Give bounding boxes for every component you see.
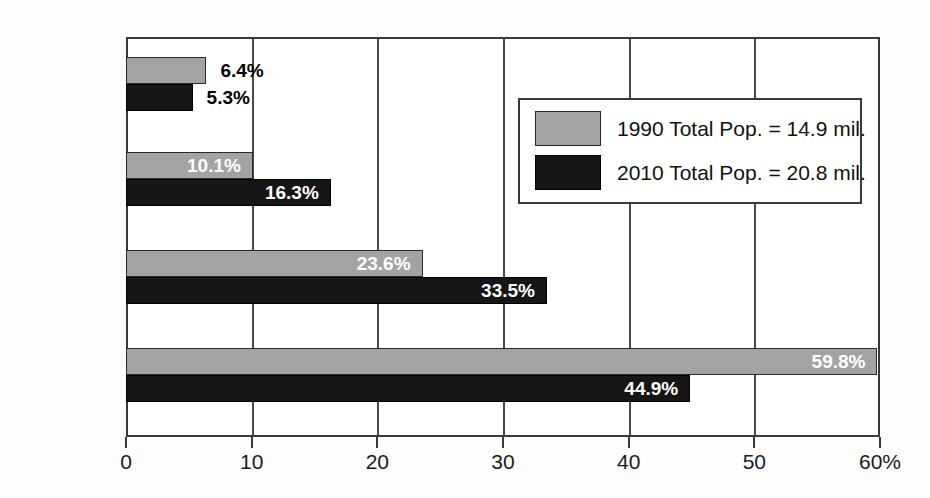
bar-value-label: 23.6% [329, 250, 411, 277]
bar-value-label: 33.5% [453, 277, 535, 304]
x-tick-30 [502, 437, 504, 448]
legend-entry-2010: 2010 Total Pop. = 20.8 mil. [535, 155, 866, 190]
x-tick-label-0: 0 [120, 450, 132, 474]
x-tick-20 [376, 437, 378, 448]
legend-swatch-1990 [535, 111, 601, 146]
bar-value-label: 59.8% [783, 348, 865, 375]
legend: 1990 Total Pop. = 14.9 mil. 2010 Total P… [518, 98, 862, 204]
x-tick-10 [251, 437, 253, 448]
bar-chart: 6.4%5.3%10.1%16.3%23.6%33.5%59.8%44.9% B… [0, 0, 930, 498]
x-tick-label-50: 50 [743, 450, 766, 474]
legend-label-2010: 2010 Total Pop. = 20.8 mil. [617, 161, 866, 185]
x-tick-40 [628, 437, 630, 448]
x-tick-label-30: 30 [491, 450, 514, 474]
legend-entry-1990: 1990 Total Pop. = 14.9 mil. [535, 111, 866, 146]
bar-value-label: 6.4% [220, 57, 263, 84]
legend-label-1990: 1990 Total Pop. = 14.9 mil. [617, 117, 866, 141]
bar-value-label: 16.3% [237, 179, 319, 206]
bar-value-label: 10.1% [159, 152, 241, 179]
x-tick-50 [753, 437, 755, 448]
bar [126, 84, 193, 111]
x-tick-label-40: 40 [617, 450, 640, 474]
x-tick-label-20: 20 [366, 450, 389, 474]
x-tick-60 [879, 437, 881, 448]
x-tick-0 [125, 437, 127, 448]
x-tick-label-60: 60% [859, 450, 901, 474]
bar-value-label: 5.3% [207, 84, 250, 111]
bar [126, 348, 877, 375]
legend-swatch-2010 [535, 155, 601, 190]
x-tick-label-10: 10 [240, 450, 263, 474]
bar [126, 57, 206, 84]
bar-value-label: 44.9% [596, 375, 678, 402]
